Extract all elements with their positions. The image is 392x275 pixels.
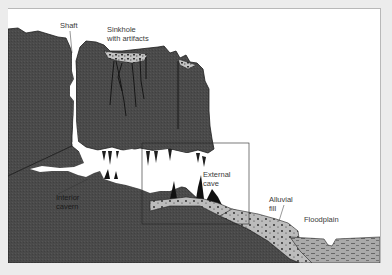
label-interior-cavern: Interior cavern [56,193,79,211]
diagram-panel: Shaft Sinkhole with artifacts Interior c… [8,8,381,263]
label-floodplain: Floodplain [304,215,339,224]
label-sinkhole: Sinkhole with artifacts [107,25,149,43]
label-external-cave: External cave [203,170,231,188]
label-alluvial-fill: Alluvial fill [269,195,293,213]
label-shaft: Shaft [60,21,78,30]
cave-cross-section [8,9,380,263]
